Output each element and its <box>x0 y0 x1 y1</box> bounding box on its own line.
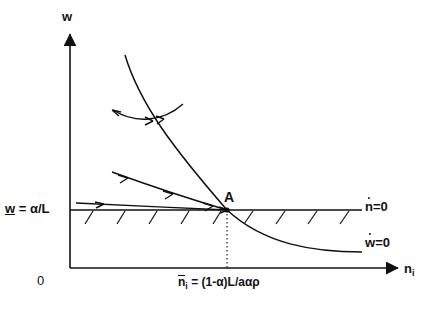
ndot-equals-zero: =0 <box>373 199 388 214</box>
ni-axis-label-main: n <box>404 261 412 276</box>
wdot-symbol: w <box>365 236 375 249</box>
w-axis-label: w <box>62 10 72 23</box>
origin-label: 0 <box>37 274 44 287</box>
ndot-zero-label: n=0 <box>365 200 388 213</box>
nbar-value-label: ni = (1-α)L/aαρ <box>178 275 260 291</box>
ni-axis-label-subscript: i <box>412 268 415 278</box>
nbar-expression: (1-α)L/aαρ <box>202 275 260 289</box>
nbar-equals: = <box>188 275 202 289</box>
equilibrium-point-label: A <box>224 190 234 204</box>
wdot-equals-zero: =0 <box>375 235 390 250</box>
wdot-zero-label: w=0 <box>365 236 390 249</box>
ndot-symbol: n <box>365 200 373 213</box>
phase-diagram-canvas <box>0 0 430 310</box>
ni-axis-label: ni <box>404 262 414 278</box>
hatching-left-of-a <box>85 211 221 224</box>
wbar-symbol: w <box>5 201 15 216</box>
hatching-right-of-a <box>244 211 349 224</box>
wbar-expression: α/L <box>30 201 50 216</box>
wbar-equals: = <box>15 201 30 216</box>
phase-diagram-figure: w ni 0 w = α/L A n=0 w=0 ni = (1-α)L/aαρ <box>0 0 430 310</box>
wdot-zero-nullcline <box>125 55 362 252</box>
trajectory-upper <box>112 104 183 125</box>
wbar-level-label: w = α/L <box>5 202 50 215</box>
